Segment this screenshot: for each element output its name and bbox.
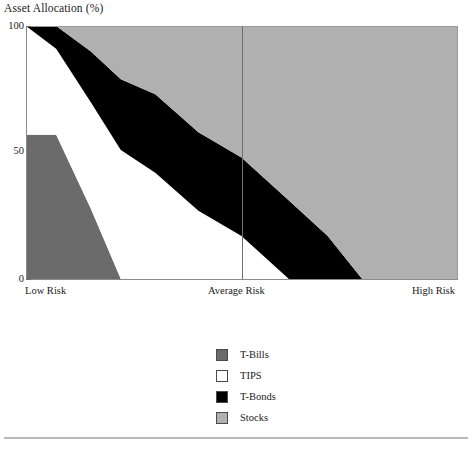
y-tick-0 <box>26 279 31 280</box>
legend-item-t-bills: T-Bills <box>216 344 366 365</box>
y-tick-100 <box>26 26 31 27</box>
legend-swatch-t-bills <box>216 349 228 361</box>
x-axis-label-low-risk: Low Risk <box>25 285 66 296</box>
y-axis-label-100: 100 <box>2 21 24 31</box>
y-axis-label-0: 0 <box>2 274 24 284</box>
legend-item-tips: TIPS <box>216 365 366 386</box>
legend-label-t-bills: T-Bills <box>240 349 269 360</box>
x-axis-label-high-risk: High Risk <box>412 285 455 296</box>
legend-item-stocks: Stocks <box>216 407 366 428</box>
legend-label-t-bonds: T-Bonds <box>240 391 276 402</box>
y-tick-50 <box>26 151 31 152</box>
legend-label-tips: TIPS <box>240 370 262 381</box>
average-risk-divider <box>242 26 243 279</box>
legend-swatch-t-bonds <box>216 391 228 403</box>
y-axis-line <box>26 26 27 280</box>
chart-legend: T-Bills TIPS T-Bonds Stocks <box>216 344 366 428</box>
footer-note <box>4 440 468 449</box>
footer-divider <box>4 437 468 439</box>
plot-border-right <box>457 26 458 280</box>
chart-title: Asset Allocation (%) <box>4 2 103 14</box>
legend-swatch-stocks <box>216 412 228 424</box>
x-axis-label-average-risk: Average Risk <box>208 285 265 296</box>
legend-swatch-tips <box>216 370 228 382</box>
asset-allocation-figure: Asset Allocation (%) 100 50 0 Low Risk A… <box>0 0 472 449</box>
legend-item-t-bonds: T-Bonds <box>216 386 366 407</box>
y-axis-label-50: 50 <box>2 146 24 156</box>
x-axis-line <box>26 279 458 280</box>
legend-label-stocks: Stocks <box>240 412 268 423</box>
